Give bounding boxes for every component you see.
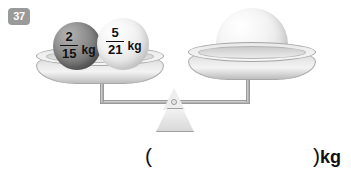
balance-scale: 2 15 kg 5 21 kg	[0, 0, 351, 140]
close-paren: )	[313, 144, 320, 167]
worksheet-problem: 37 2 15 kg 5 21 kg	[0, 0, 351, 179]
denominator: 15	[60, 45, 78, 61]
fulcrum-pivot-icon	[171, 99, 177, 105]
open-paren: (	[145, 144, 152, 168]
numerator: 5	[106, 26, 124, 41]
light-sphere-weight-label: 5 21 kg	[106, 26, 141, 56]
right-pan-stem	[246, 80, 250, 102]
answer-input[interactable]	[152, 143, 313, 169]
answer-unit: kg	[320, 147, 341, 167]
fraction-5-21: 5 21	[106, 26, 124, 56]
answer-line: ( )kg	[145, 143, 341, 169]
unit-label: kg	[81, 43, 95, 60]
numerator: 2	[60, 30, 78, 45]
right-pan	[188, 42, 316, 82]
close-paren-with-unit: )kg	[313, 144, 341, 168]
right-pan-inner	[198, 46, 306, 59]
fulcrum-base	[156, 108, 194, 132]
unit-label: kg	[127, 39, 141, 56]
denominator: 21	[106, 41, 124, 57]
fraction-2-15: 2 15	[60, 30, 78, 60]
dark-sphere-weight-label: 2 15 kg	[60, 30, 95, 60]
